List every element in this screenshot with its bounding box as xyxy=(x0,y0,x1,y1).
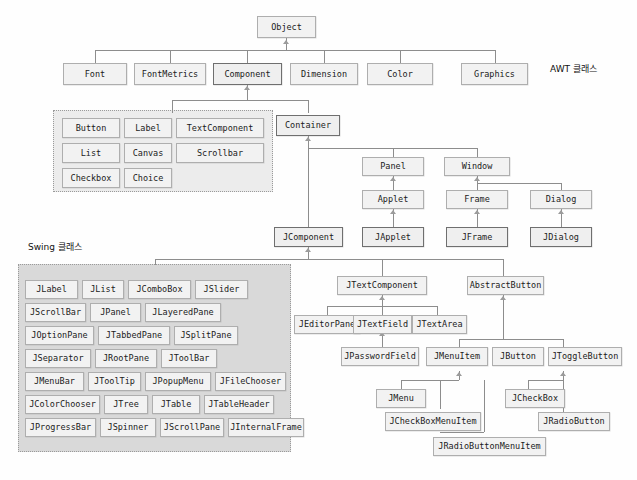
connector xyxy=(95,50,96,63)
node-button[interactable]: Button xyxy=(62,118,120,138)
node-color[interactable]: Color xyxy=(367,63,433,85)
node-jcombobox[interactable]: JComboBox xyxy=(128,280,191,299)
node-dialog[interactable]: Dialog xyxy=(530,190,592,209)
connector xyxy=(382,259,383,276)
inheritance-arrow xyxy=(474,177,480,181)
node-jlabel[interactable]: JLabel xyxy=(25,280,78,299)
connector xyxy=(400,50,401,63)
node-jtextarea[interactable]: JTextArea xyxy=(412,315,467,334)
node-jcheckbox[interactable]: JCheckBox xyxy=(505,389,565,408)
node-canvas[interactable]: Canvas xyxy=(124,143,172,163)
node-jtogglebutton[interactable]: JToggleButton xyxy=(548,347,622,366)
node-textcomponent[interactable]: TextComponent xyxy=(176,118,264,138)
connector xyxy=(95,50,495,51)
connector xyxy=(393,148,394,157)
node-jtextfield[interactable]: JTextField xyxy=(353,315,412,334)
node-choice[interactable]: Choice xyxy=(124,168,172,188)
node-container[interactable]: Container xyxy=(276,115,340,136)
node-jframe[interactable]: JFrame xyxy=(446,227,508,247)
connector xyxy=(324,50,325,63)
node-joptionpane[interactable]: JOptionPane xyxy=(25,326,94,345)
node-fontmetrics[interactable]: FontMetrics xyxy=(134,63,206,85)
node-jsplitpane[interactable]: JSplitPane xyxy=(174,326,238,345)
connector xyxy=(401,380,459,381)
connector xyxy=(170,50,171,63)
node-jscrollpane[interactable]: JScrollPane xyxy=(160,418,224,437)
node-jtableheader[interactable]: JTableHeader xyxy=(204,395,274,414)
node-component[interactable]: Component xyxy=(213,63,282,85)
node-jpasswordfield[interactable]: JPasswordField xyxy=(341,347,419,366)
connector xyxy=(382,306,383,315)
connector xyxy=(528,380,563,381)
awt-section-caption: AWT 클래스 xyxy=(550,62,597,75)
node-window[interactable]: Window xyxy=(444,157,510,176)
connector xyxy=(440,432,484,433)
node-dimension[interactable]: Dimension xyxy=(290,63,358,85)
node-list[interactable]: List xyxy=(62,143,120,163)
inheritance-arrow xyxy=(283,40,289,44)
node-jmenu[interactable]: JMenu xyxy=(376,389,426,408)
node-jcolorchooser[interactable]: JColorChooser xyxy=(25,395,100,414)
connector xyxy=(327,306,328,315)
node-jseparator[interactable]: JSeparator xyxy=(25,349,91,368)
inheritance-arrow xyxy=(560,372,566,376)
node-jeditorpane[interactable]: JEditorPane xyxy=(294,315,360,334)
node-jinternalframe[interactable]: JInternalFrame xyxy=(228,418,304,437)
node-jtabbedpane[interactable]: JTabbedPane xyxy=(98,326,170,345)
node-jradiobuttonmenuitem[interactable]: JRadioButtonMenuItem xyxy=(433,437,546,456)
class-hierarchy-diagram: AWT 클래스 Swing 클래스 xyxy=(0,0,637,480)
node-jspinner[interactable]: JSpinner xyxy=(100,418,156,437)
node-jdialog[interactable]: JDialog xyxy=(530,227,592,247)
node-object[interactable]: Object xyxy=(257,16,316,38)
node-jcomponent[interactable]: JComponent xyxy=(274,227,343,247)
node-jpopupmenu[interactable]: JPopupMenu xyxy=(145,372,211,391)
node-jlist[interactable]: JList xyxy=(82,280,124,299)
node-jslider[interactable]: JSlider xyxy=(195,280,248,299)
node-applet[interactable]: Applet xyxy=(362,190,424,209)
connector xyxy=(477,183,561,184)
connector xyxy=(459,339,460,347)
node-jscrollbar[interactable]: JScrollBar xyxy=(25,303,86,322)
swing-section-caption: Swing 클래스 xyxy=(28,240,82,253)
node-jlayeredpane[interactable]: JLayeredPane xyxy=(145,303,221,322)
connector xyxy=(308,100,309,113)
node-jtextcomponent[interactable]: JTextComponent xyxy=(337,276,427,295)
connector xyxy=(440,380,441,409)
connector xyxy=(172,100,309,101)
node-jbutton[interactable]: JButton xyxy=(492,347,544,366)
node-jtree[interactable]: JTree xyxy=(104,395,148,414)
inheritance-arrow xyxy=(558,210,564,214)
inheritance-arrow xyxy=(474,210,480,214)
node-jmenubar[interactable]: JMenuBar xyxy=(25,372,84,391)
node-jradiobutton[interactable]: JRadioButton xyxy=(538,412,610,431)
node-abstractbutton[interactable]: AbstractButton xyxy=(467,276,544,295)
inheritance-arrow xyxy=(244,86,250,90)
inheritance-arrow xyxy=(305,137,311,141)
connector xyxy=(484,380,485,432)
node-jmenuitem[interactable]: JMenuItem xyxy=(426,347,488,366)
connector xyxy=(528,380,529,389)
node-jpanel[interactable]: JPanel xyxy=(90,303,141,322)
connector xyxy=(477,148,478,157)
node-font[interactable]: Font xyxy=(63,63,127,85)
node-jfilechooser[interactable]: JFileChooser xyxy=(215,372,286,391)
node-japplet[interactable]: JApplet xyxy=(362,227,424,247)
inheritance-arrow xyxy=(379,296,385,300)
node-label[interactable]: Label xyxy=(124,118,172,138)
connector xyxy=(495,50,496,63)
node-jcheckboxmenuitem[interactable]: JCheckBoxMenuItem xyxy=(385,412,481,431)
node-jtooltip[interactable]: JToolTip xyxy=(88,372,141,391)
node-jtoolbar[interactable]: JToolBar xyxy=(161,349,217,368)
node-checkbox[interactable]: Checkbox xyxy=(62,168,120,188)
node-jtable[interactable]: JTable xyxy=(152,395,200,414)
connector xyxy=(308,148,309,228)
inheritance-arrow xyxy=(390,210,396,214)
inheritance-arrow xyxy=(305,248,311,252)
node-jrootpane[interactable]: JRootPane xyxy=(95,349,157,368)
node-jprogressbar[interactable]: JProgressBar xyxy=(25,418,96,437)
node-frame[interactable]: Frame xyxy=(446,190,508,209)
node-graphics[interactable]: Graphics xyxy=(461,63,528,85)
connector xyxy=(437,306,438,315)
node-scrollbar[interactable]: Scrollbar xyxy=(176,143,264,163)
node-panel[interactable]: Panel xyxy=(362,157,424,176)
